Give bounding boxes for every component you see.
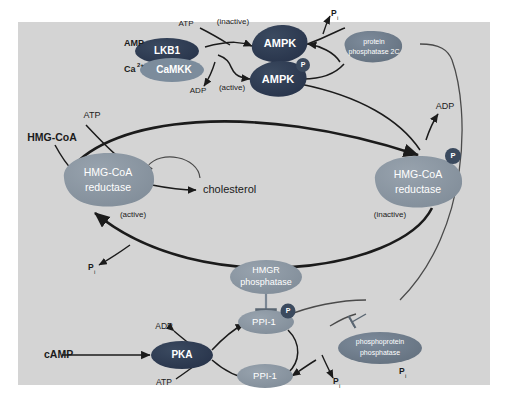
node-phosphoprotein-phosphatase[interactable]: phosphoprotein phosphatase [338, 332, 422, 364]
arrow-reductase-to-cholesterol [152, 185, 196, 190]
label-pi-bottom-right-group: P i [333, 376, 340, 388]
arrow-to-adp-top [204, 62, 215, 86]
label-state-active-hmgr: (active) [120, 210, 147, 219]
pka-ppi1-cycle [62, 300, 366, 379]
label-pi-bottom-far-group: P i [399, 366, 406, 378]
line-ampk-active-to-hmgr [300, 84, 420, 150]
adp-right-group [426, 114, 438, 140]
ampk-inactive-label: AMPK [264, 37, 296, 49]
label-camp: cAMP [44, 348, 73, 360]
label-state-active-ampk: (active) [219, 83, 246, 92]
ampk-active-label: AMPK [262, 73, 294, 85]
phosphoprotein-phosphatase-label-line2: phosphatase [360, 349, 400, 357]
node-protein-phosphatase-2c[interactable]: protein phosphatase 2C [345, 31, 403, 62]
arrow-camkk-to-ampk-active [218, 55, 250, 79]
line-ppi1-right-connector [286, 300, 366, 316]
camkk-label: CaMKK [156, 64, 192, 75]
hmgr-active-label-line1: HMG-CoA [84, 166, 132, 178]
label-state-inactive-ampk: (inactive) [217, 17, 250, 26]
arrow-pi-release-top [323, 16, 330, 34]
node-pka[interactable]: PKA [151, 341, 213, 369]
node-hmgr-phosphatase[interactable]: HMGR phosphatase [230, 260, 302, 294]
inhibition-cholesterol-to-reductase [148, 157, 200, 178]
label-state-inactive-hmgr: (inactive) [374, 210, 407, 219]
label-atp-top: ATP [179, 19, 194, 28]
node-ppi1-dephospho[interactable]: PPI-1 [237, 364, 293, 388]
diagram-canvas: LKB1 CaMKK AMPK AMPK P protein phosphata… [0, 0, 515, 404]
node-hmgcoa-reductase-inactive[interactable]: HMG-CoA reductase P [375, 148, 462, 208]
phosphate-icon-ppi1: P [286, 307, 291, 314]
hmgr-inactive-label-line2: reductase [395, 183, 441, 195]
hmgr-phosphatase-label-line2: phosphatase [240, 277, 292, 287]
line-ppi1-to-phosphoprotein-phosphatase [330, 314, 356, 326]
inhibition-phosphoprotein-phosphatase [352, 314, 366, 322]
arrow-pka-to-ppi1-phospho [212, 324, 244, 350]
node-ampk-inactive[interactable]: AMPK [252, 25, 308, 62]
label-pi-left-mid-group: P i [88, 262, 95, 274]
arrow-pp2c-to-ampk-inactive [308, 44, 340, 62]
pi-left-mid-group [99, 245, 130, 265]
line-atp-to-lkb1 [200, 28, 230, 45]
label-pi-bottom-far-sub: i [405, 373, 406, 379]
node-camkk[interactable]: CaMKK [140, 58, 204, 82]
phosphate-icon-ampk: P [301, 61, 306, 68]
label-adp-bottom: ADP [155, 321, 173, 331]
label-pi-left-mid-sub: i [94, 269, 95, 275]
line-right-top-connector [420, 44, 452, 60]
label-amp: AMP [124, 38, 144, 48]
label-ca-charge: 2+ [137, 62, 144, 68]
label-pi-top-group: P i [331, 8, 338, 20]
ppi1-phospho-label: PPI-1 [252, 316, 276, 327]
hmgr-active-label-line2: reductase [85, 181, 131, 193]
node-hmgcoa-reductase-active[interactable]: HMG-CoA reductase [64, 153, 154, 207]
diagram-root: LKB1 CaMKK AMPK AMPK P protein phosphata… [0, 0, 515, 404]
label-cholesterol: cholesterol [203, 183, 256, 195]
arrow-to-pi-left-mid [99, 245, 130, 265]
label-atp-left: ATP [84, 110, 101, 120]
phosphoprotein-phosphatase-label-line1: phosphoprotein [356, 338, 404, 346]
label-pi-bottom-right-sub: i [339, 383, 340, 389]
pp2c-label-line1: protein [363, 38, 385, 46]
hmgr-inactive-label-line1: HMG-CoA [394, 168, 442, 180]
arrow-to-pi-bottom-right [322, 355, 333, 378]
label-adp-right: ADP [436, 101, 455, 111]
line-ppi1-phospho-to-dephospho [288, 330, 298, 373]
lkb1-label: LKB1 [154, 45, 181, 56]
arrow-to-adp-right [426, 114, 438, 140]
pka-label: PKA [171, 349, 192, 360]
phosphate-icon-hmgr: P [450, 151, 455, 160]
hmgr-phosphatase-label-line1: HMGR [252, 265, 280, 275]
pp2c-label-line2: phosphatase 2C [349, 48, 400, 56]
ppi1-dephospho-label: PPI-1 [253, 370, 277, 381]
label-hmg-coa: HMG-CoA [27, 131, 77, 143]
line-ampk-inactive-right [305, 28, 345, 45]
label-ca: Ca [124, 64, 136, 74]
node-ampk-active[interactable]: AMPK P [250, 58, 310, 97]
label-pi-top-sub: i [337, 15, 338, 21]
label-atp-bottom: ATP [156, 377, 172, 387]
label-adp-top: ADP [190, 86, 206, 95]
